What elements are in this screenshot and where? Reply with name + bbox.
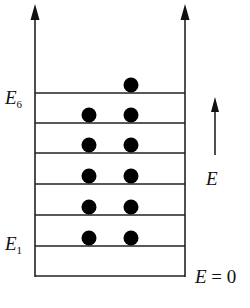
right-axis [181,4,190,277]
left-axis [31,4,40,277]
electron [124,200,139,215]
electron [82,169,97,184]
electrons [82,78,139,246]
electron [124,231,139,246]
electron [82,200,97,215]
arrow-up-icon [181,4,190,20]
electron [82,231,97,246]
electron [124,108,139,123]
electron [124,78,139,93]
electron [82,108,97,123]
energy-levels [35,93,185,276]
electron [124,138,139,153]
energy-level-diagram: E6 E1 E E = 0 [0,0,250,308]
label-zero-energy: E = 0 [194,266,236,287]
label-e1: E1 [4,233,22,256]
label-energy: E [205,168,218,189]
label-e6: E6 [4,87,23,110]
electron [82,138,97,153]
energy-arrow [211,97,219,155]
electron [124,169,139,184]
arrow-up-icon [211,97,219,112]
arrow-up-icon [31,4,40,20]
